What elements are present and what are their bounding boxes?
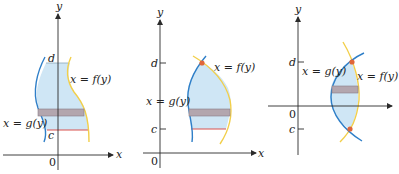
intersection-point-bottom: [347, 126, 352, 131]
y-axis-label: y: [294, 3, 302, 16]
c-label: c: [289, 123, 295, 136]
c-label: c: [48, 129, 54, 142]
panel-3: y 0 d c x = g(y) x = f(y): [268, 3, 398, 155]
d-label: d: [48, 52, 55, 65]
x-axis-label: x: [258, 147, 265, 160]
f-curve-label: x = f(y): [214, 61, 255, 74]
origin-label: 0: [151, 155, 158, 168]
y-axis-label: y: [156, 6, 164, 19]
origin-label: 0: [289, 108, 296, 121]
horizontal-strip: [332, 86, 358, 93]
g-curve-label: x = g(y): [3, 117, 47, 130]
region-between-curves-figure: y x 0 d c x = f(y) x = g(y) y x 0 d c x …: [0, 0, 399, 174]
panel-1: y x 0 d c x = f(y) x = g(y): [3, 0, 123, 170]
d-label: d: [151, 57, 158, 70]
x-axis-label: x: [116, 148, 123, 161]
horizontal-strip: [38, 109, 84, 116]
horizontal-strip: [189, 109, 230, 116]
y-axis-label: y: [55, 0, 63, 13]
c-label: c: [151, 123, 157, 136]
intersection-point: [199, 60, 204, 65]
intersection-point-top: [349, 59, 354, 64]
origin-label: 0: [49, 156, 56, 169]
f-curve-label: x = f(y): [70, 73, 111, 86]
g-curve-label: x = g(y): [146, 95, 190, 108]
d-label: d: [289, 56, 296, 69]
g-curve-label: x = g(y): [302, 65, 346, 78]
f-curve-label: x = f(y): [357, 70, 398, 83]
panel-2: y x 0 d c x = f(y) x = g(y): [143, 6, 265, 168]
